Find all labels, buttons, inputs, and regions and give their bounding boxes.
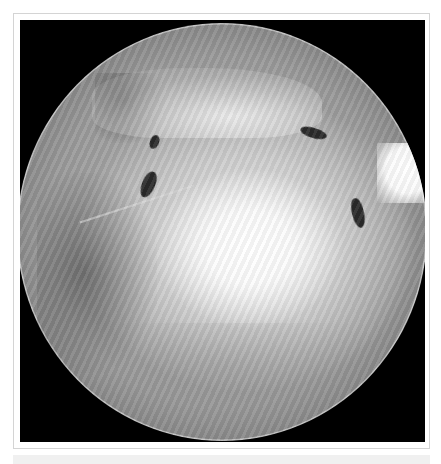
caption-strip	[13, 455, 430, 464]
endoscopic-view	[20, 23, 425, 441]
image-viewport	[20, 20, 425, 442]
scan-stripes-overlay	[20, 23, 425, 441]
